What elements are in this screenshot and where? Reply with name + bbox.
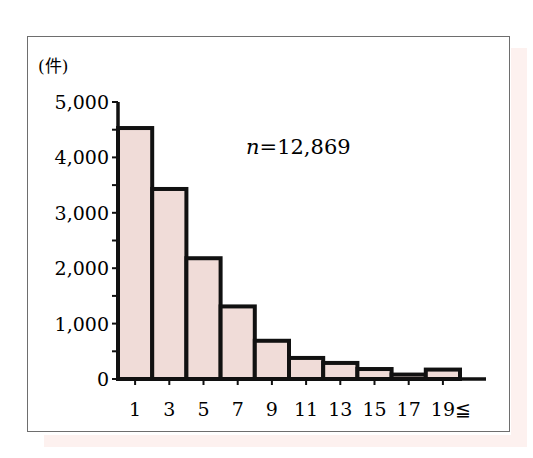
x-axis: 135791113151719≦: [117, 379, 486, 420]
x-tick-label: 7: [232, 398, 244, 420]
annotation-value: =12,869: [260, 135, 351, 159]
bar-13: [323, 363, 357, 379]
x-tick-label: 15: [362, 398, 386, 420]
bar-chart: (件) 01,0002,0003,0004,0005,000 135791113…: [0, 0, 533, 458]
y-axis: 01,0002,0003,0004,0005,000: [55, 91, 118, 390]
y-tick-label: 2,000: [55, 257, 109, 279]
bar-9: [255, 341, 289, 379]
bar-7: [221, 306, 255, 379]
x-tick-label: 11: [294, 398, 318, 420]
x-tick-label: 13: [328, 398, 352, 420]
x-tick-label: 17: [397, 398, 421, 420]
y-tick-label: 5,000: [55, 91, 109, 113]
y-tick-label: 1,000: [55, 313, 109, 335]
x-tick-label: 3: [163, 398, 175, 420]
x-tick-label: 19≦: [431, 398, 471, 420]
bar-11: [289, 358, 323, 379]
annotation-variable: n: [246, 135, 260, 159]
y-tick-label: 4,000: [55, 146, 109, 168]
x-tick-label: 9: [266, 398, 278, 420]
bar-5: [186, 258, 220, 379]
x-tick-label: 1: [129, 398, 141, 420]
y-tick-label: 3,000: [55, 202, 109, 224]
x-tick-label: 5: [197, 398, 209, 420]
y-unit-label: (件): [38, 56, 68, 76]
bar-1: [118, 128, 152, 379]
bar-3: [152, 189, 186, 379]
bars-group: [118, 128, 460, 379]
sample-size-annotation: n=12,869: [246, 135, 351, 159]
y-tick-label: 0: [97, 368, 109, 390]
